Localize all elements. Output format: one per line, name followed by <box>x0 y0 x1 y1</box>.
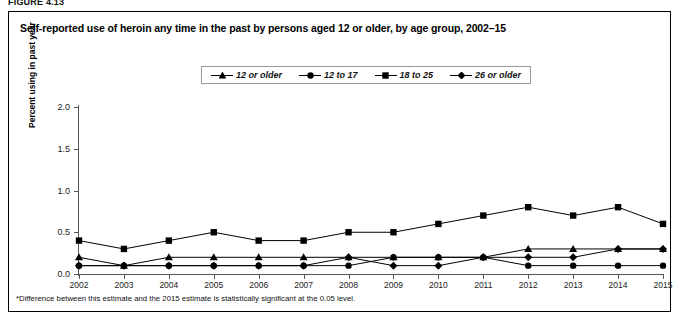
y-axis-tick-label: 0.5 <box>57 227 70 237</box>
legend-item-12-to-17: 12 to 17 <box>299 70 358 80</box>
data-point <box>390 254 396 260</box>
series-18-to-25 <box>76 204 666 252</box>
x-axis-tick-label: 2008 <box>339 280 358 290</box>
x-axis-tick-label: 2010 <box>429 280 448 290</box>
data-point <box>300 253 308 260</box>
x-axis-tick-label: 2004 <box>159 280 178 290</box>
y-axis-tick-label: 0.0 <box>57 269 70 279</box>
data-point <box>121 246 127 252</box>
x-axis-tick-mark <box>573 275 574 279</box>
x-axis-tick-mark <box>214 275 215 279</box>
data-point <box>525 204 531 210</box>
x-axis-tick-label: 2003 <box>114 280 133 290</box>
legend-label: 26 or older <box>475 70 521 80</box>
x-axis-tick-mark <box>124 275 125 279</box>
x-axis-tick-label: 2002 <box>70 280 89 290</box>
y-axis-tick-labels: 0.00.51.01.52.0 <box>46 107 70 274</box>
data-point <box>389 262 397 270</box>
legend-label: 18 to 25 <box>400 70 434 80</box>
data-point <box>300 237 306 243</box>
x-axis-tick-label: 2011 <box>474 280 492 290</box>
legend-label: 12 or older <box>236 70 282 80</box>
data-point <box>615 262 621 268</box>
x-axis-tick-mark <box>438 275 439 279</box>
x-axis-tick-label: 2006 <box>249 280 268 290</box>
y-axis-tick-label: 2.0 <box>57 102 70 112</box>
x-axis-tick-label: 2013 <box>564 280 583 290</box>
x-axis-tick-mark <box>304 275 305 279</box>
x-axis-tick-mark <box>259 275 260 279</box>
legend-label: 12 to 17 <box>324 70 358 80</box>
legend-item-18-to-25: 18 to 25 <box>375 70 434 80</box>
data-point <box>525 262 531 268</box>
data-point <box>165 262 173 270</box>
x-axis-tick-mark <box>349 275 350 279</box>
y-axis-tick-label: 1.0 <box>57 186 70 196</box>
data-point <box>660 262 666 268</box>
x-axis-tick-label: 2012 <box>519 280 538 290</box>
x-axis-tick-mark <box>483 275 484 279</box>
triangle-marker-icon <box>211 71 233 80</box>
series-lines <box>79 107 663 274</box>
data-point <box>255 262 263 270</box>
data-point <box>76 237 82 243</box>
data-point <box>166 237 172 243</box>
x-axis-tick-mark <box>528 275 529 279</box>
square-marker-icon <box>375 71 397 80</box>
data-point <box>210 262 218 270</box>
plot-area <box>79 107 663 274</box>
data-point <box>345 262 351 268</box>
chart-title: Self-reported use of heroin any time in … <box>20 22 506 34</box>
data-point <box>570 262 576 268</box>
data-point <box>255 253 263 260</box>
data-point <box>345 229 351 235</box>
diamond-marker-icon <box>450 71 472 80</box>
legend-item-12-or-older: 12 or older <box>211 70 282 80</box>
x-axis-tick-label: 2015 <box>654 280 673 290</box>
data-point <box>434 262 442 270</box>
data-point <box>615 204 621 210</box>
circle-marker-icon <box>299 71 321 80</box>
data-point <box>480 212 486 218</box>
data-point <box>211 229 217 235</box>
x-axis-tick-labels: 2002200320042005200620072008200920102011… <box>79 280 663 294</box>
data-point <box>570 212 576 218</box>
x-axis-tick-label: 2014 <box>609 280 628 290</box>
x-axis-tick-label: 2009 <box>384 280 403 290</box>
x-axis-tick-mark <box>618 275 619 279</box>
y-axis-tick-label: 1.5 <box>57 144 70 154</box>
x-axis-tick-label: 2007 <box>294 280 313 290</box>
x-axis-tick-mark <box>663 275 664 279</box>
data-point <box>255 237 261 243</box>
data-point <box>390 229 396 235</box>
chart-legend: 12 or older12 to 1718 to 2526 or older <box>201 66 531 84</box>
chart-footnote: *Difference between this estimate and th… <box>16 294 355 303</box>
legend-item-26-or-older: 26 or older <box>450 70 521 80</box>
data-point <box>660 221 666 227</box>
x-axis-tick-mark <box>393 275 394 279</box>
x-axis-tick-mark <box>169 275 170 279</box>
x-axis-tick-label: 2005 <box>204 280 223 290</box>
data-point <box>210 253 218 260</box>
data-point <box>435 221 441 227</box>
y-axis-title: Percent using in past year <box>27 0 37 128</box>
data-point <box>569 253 577 261</box>
x-axis-tick-mark <box>79 275 80 279</box>
data-point <box>435 254 441 260</box>
data-point <box>524 253 532 261</box>
data-point <box>165 253 173 260</box>
data-point <box>300 262 308 270</box>
